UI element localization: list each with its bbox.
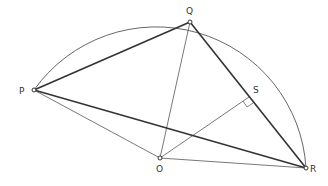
label-S: S xyxy=(253,85,259,95)
geometry-diagram: P Q O R S xyxy=(0,0,328,186)
label-Q: Q xyxy=(186,6,193,16)
segment-OR xyxy=(160,158,306,168)
point-Q xyxy=(188,20,192,24)
point-R xyxy=(304,166,308,170)
segment-PR xyxy=(34,90,306,168)
segment-OS xyxy=(160,97,249,158)
point-P xyxy=(32,88,36,92)
right-angle-marker xyxy=(243,101,253,107)
label-O: O xyxy=(156,164,163,174)
point-O xyxy=(158,156,162,160)
segment-OQ xyxy=(160,22,190,158)
label-P: P xyxy=(19,86,25,96)
segment-QR xyxy=(190,22,306,168)
label-R: R xyxy=(310,164,316,174)
circle-arc xyxy=(34,27,306,168)
segment-PQ xyxy=(34,22,190,90)
segment-OP xyxy=(34,90,160,158)
